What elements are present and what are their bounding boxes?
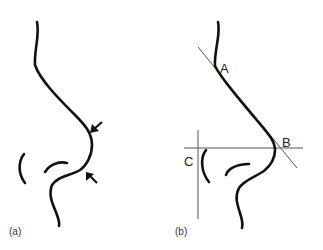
- point-label-c: C: [184, 155, 193, 168]
- panel-a-profile: [20, 22, 92, 226]
- arrow-lower-icon: [86, 172, 97, 183]
- figure-canvas: [0, 0, 323, 250]
- nose-profile-line: [215, 22, 275, 228]
- panel-b-guides: [184, 47, 303, 219]
- caption-b: (b): [175, 227, 187, 237]
- panel-b-profile: [202, 22, 275, 228]
- point-label-b: B: [282, 136, 291, 149]
- lip-bracket: [20, 154, 25, 183]
- nose-profile-line: [35, 22, 92, 226]
- point-label-a: A: [220, 62, 229, 75]
- nostril-curve: [45, 162, 67, 172]
- arrow-upper-icon: [90, 122, 102, 133]
- caption-a: (a): [9, 227, 21, 237]
- lip-bracket: [202, 150, 209, 182]
- nostril-curve: [226, 164, 249, 175]
